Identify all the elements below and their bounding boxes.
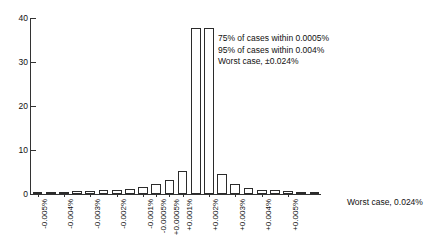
bar — [296, 192, 306, 194]
x-tick-label: -0.002% — [120, 199, 128, 229]
x-axis-line — [30, 194, 321, 195]
x-tick-label: -0.005% — [41, 199, 49, 229]
x-tick-mark — [169, 194, 170, 197]
y-tick-label: 0 — [4, 190, 28, 199]
worst-case-caption: Worst case, 0.024% — [347, 198, 423, 207]
x-tick-mark — [288, 194, 289, 197]
bar — [178, 171, 188, 194]
x-tick-mark — [38, 194, 39, 197]
x-tick-label: +0.005% — [292, 199, 300, 231]
y-tick-label: 20 — [4, 102, 28, 111]
x-tick-label: -0.001% — [147, 199, 155, 229]
y-tick-label-wrap: 0 — [0, 190, 28, 199]
y-tick-label-wrap: 20 — [0, 102, 28, 111]
bar — [125, 189, 135, 194]
x-tick-label: -0.004% — [67, 199, 75, 229]
x-tick-mark — [183, 194, 184, 197]
bar — [191, 28, 201, 194]
bar — [244, 188, 254, 194]
x-tick-label: +0.003% — [239, 199, 247, 231]
bar — [99, 190, 109, 194]
bar — [138, 187, 148, 194]
x-tick-label: -0.0005% — [160, 199, 168, 233]
x-tick-label: +0.004% — [265, 199, 273, 231]
x-tick-label: +0.002% — [212, 199, 220, 231]
bar — [151, 184, 161, 194]
y-tick-label: 30 — [4, 58, 28, 67]
y-tick-label: 10 — [4, 146, 28, 155]
annotation-block: 75% of cases within 0.0005% 95% of cases… — [218, 33, 329, 68]
x-tick-mark — [90, 194, 91, 197]
y-tick-label-wrap: 10 — [0, 146, 28, 155]
x-tick-mark — [156, 194, 157, 197]
y-tick-label: 40 — [4, 14, 28, 23]
bar — [310, 192, 320, 194]
x-tick-mark — [235, 194, 236, 197]
y-tick-label-wrap: 40 — [0, 14, 28, 23]
x-tick-label: +0.0005% — [173, 199, 181, 235]
bar — [230, 184, 240, 194]
annotation-line-1: 75% of cases within 0.0005% — [218, 33, 329, 45]
x-tick-mark — [209, 194, 210, 197]
bar — [204, 28, 214, 194]
bar — [46, 192, 56, 194]
x-tick-label: -0.003% — [94, 199, 102, 229]
bar — [72, 191, 82, 194]
bar — [165, 180, 175, 194]
x-tick-mark — [143, 194, 144, 197]
annotation-line-2: 95% of cases within 0.004% — [218, 45, 329, 57]
y-tick-mark — [30, 194, 36, 195]
x-tick-mark — [117, 194, 118, 197]
histogram-chart: 010203040 -0.005%-0.004%-0.003%-0.002%-0… — [0, 0, 442, 245]
x-tick-mark — [262, 194, 263, 197]
bar — [270, 190, 280, 194]
bar — [217, 174, 227, 194]
x-tick-mark — [64, 194, 65, 197]
x-tick-label: +0.001% — [186, 199, 194, 231]
y-tick-label-wrap: 30 — [0, 58, 28, 67]
annotation-line-3: Worst case, ±0.024% — [218, 56, 329, 68]
